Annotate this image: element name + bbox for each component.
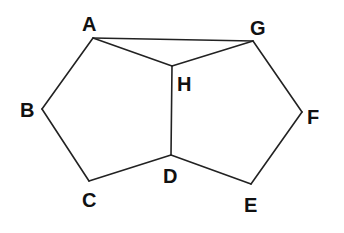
segment-AB xyxy=(42,38,93,109)
segment-BC xyxy=(42,109,89,181)
segment-AH xyxy=(93,38,172,66)
label-B: B xyxy=(20,99,34,121)
label-A: A xyxy=(82,13,96,35)
label-E: E xyxy=(244,194,257,216)
segment-HD xyxy=(171,66,172,155)
label-D: D xyxy=(163,165,177,187)
label-H: H xyxy=(177,73,191,95)
segment-DE xyxy=(171,155,251,184)
label-G: G xyxy=(250,17,266,39)
label-C: C xyxy=(82,189,96,211)
vertex-labels: A B C D E F G H xyxy=(20,13,319,216)
segment-AG xyxy=(93,38,253,41)
segment-EF xyxy=(251,112,302,184)
segment-FG xyxy=(253,41,302,112)
label-F: F xyxy=(307,106,319,128)
edges xyxy=(42,38,302,184)
segment-CD xyxy=(89,155,171,181)
segment-HG xyxy=(172,41,253,66)
geometry-diagram: A B C D E F G H xyxy=(0,0,344,233)
